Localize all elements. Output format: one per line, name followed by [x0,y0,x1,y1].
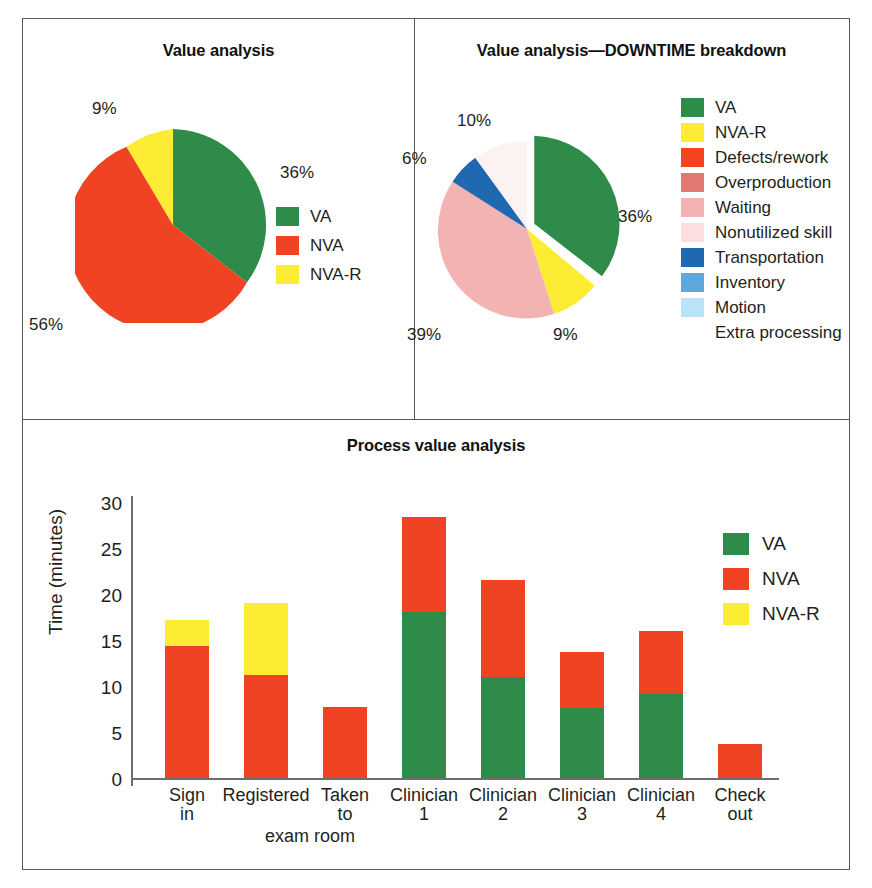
legend-process-value-analysis: VA NVA NVA-R [723,526,820,631]
bar-check-out [718,744,762,778]
bar-seg-va [402,612,446,778]
y-tick-25: 25 [101,539,122,561]
legend-label-inventory: Inventory [715,274,785,291]
legend-label-nva: NVA [310,237,344,254]
legend-item-va: VA [723,526,820,561]
legend-label-overproduction: Overproduction [715,174,831,191]
y-tick-0: 0 [111,769,122,791]
legend-item-transportation: Transportation [681,245,842,270]
legend-swatch-nvar-icon [276,265,299,284]
legend-swatch-nva-icon [723,568,749,590]
legend-label-nvar: NVA-R [762,604,820,623]
legend-label-nvar: NVA-R [715,124,767,141]
legend-swatch-transportation-icon [681,248,704,267]
panel-downtime-breakdown: Value analysis—DOWNTIME breakdown 36% [415,19,848,419]
pie-label-waiting: 39% [407,325,441,345]
legend-swatch-motion-icon [681,298,704,317]
legend-value-analysis: VA NVA NVA-R [276,202,362,289]
y-axis-label: Time (minutes) [45,509,67,635]
bar-seg-va [481,677,525,778]
legend-label-transportation: Transportation [715,249,824,266]
pie-svg-left [75,127,271,323]
bar-seg-nvar [244,603,288,675]
legend-item-defects-rework: Defects/rework [681,145,842,170]
x-label-check-out: Checkout [680,786,800,824]
legend-label-nvar: NVA-R [310,266,362,283]
pie-chart-value-analysis: 36% 56% 9% [75,127,271,323]
legend-swatch-waiting-icon [681,198,704,217]
pie-label-nva-left: 56% [29,315,63,335]
y-axis-line [131,496,133,786]
bar-clinician-1 [402,517,446,778]
legend-item-va: VA [276,202,362,231]
pie-svg-right [435,129,643,329]
legend-label-nonutilized-skill: Nonutilized skill [715,224,832,241]
legend-item-nva: NVA [276,231,362,260]
legend-item-motion: Motion [681,295,842,320]
legend-downtime: VA NVA-R Defects/rework Overproduction W… [681,95,842,345]
legend-label-va: VA [310,208,331,225]
legend-label-waiting: Waiting [715,199,771,216]
bar-seg-nva [323,707,367,778]
pie-label-transportation: 6% [402,149,427,169]
legend-item-waiting: Waiting [681,195,842,220]
pie-label-va-right: 36% [618,207,652,227]
legend-swatch-nvar-icon [723,603,749,625]
panel-value-analysis: Value analysis 36% 56% 9% VA [23,19,415,419]
bar-clinician-4 [639,631,683,778]
pie-chart-downtime: 36% 9% 39% 10% 6% [435,129,635,329]
y-tick-20: 20 [101,585,122,607]
pie-label-nonutilized-skill: 10% [457,111,491,131]
legend-label-motion: Motion [715,299,766,316]
panel-title-downtime: Value analysis—DOWNTIME breakdown [415,41,848,60]
legend-item-inventory: Inventory [681,270,842,295]
legend-swatch-defects-rework-icon [681,148,704,167]
bar-seg-va [639,694,683,778]
legend-item-nvar: NVA-R [681,120,842,145]
legend-swatch-va-icon [276,207,299,226]
bar-clinician-2 [481,580,525,778]
pie-label-nvar-left: 9% [92,99,117,119]
y-tick-5: 5 [111,723,122,745]
bar-seg-nva [481,580,525,677]
y-tick-10: 10 [101,677,122,699]
panel-title-value-analysis: Value analysis [23,41,414,60]
legend-item-overproduction: Overproduction [681,170,842,195]
legend-label-extra-processing: Extra processing [715,324,842,341]
panel-process-value-analysis: Process value analysis Time (minutes) 30… [23,419,849,868]
legend-swatch-nva-icon [276,236,299,255]
bar-sign-in [165,620,209,778]
pie-label-nvar-right: 9% [553,325,578,345]
bar-seg-nva [560,652,604,708]
bar-seg-va [560,708,604,778]
bar-seg-nva [165,646,209,778]
figure-frame: Value analysis 36% 56% 9% VA [22,18,850,870]
legend-swatch-inventory-icon [681,273,704,292]
bar-seg-nvar [165,620,209,647]
legend-swatch-overproduction-icon [681,173,704,192]
bar-clinician-3 [560,652,604,778]
bar-seg-nva [718,744,762,778]
y-tick-30: 30 [101,493,122,515]
legend-swatch-va-icon [723,533,749,555]
legend-item-nonutilized-skill: Nonutilized skill [681,220,842,245]
legend-item-nvar: NVA-R [723,596,820,631]
legend-label-va: VA [715,99,736,116]
bar-seg-nva [639,631,683,695]
legend-item-nva: NVA [723,561,820,596]
legend-swatch-nvar-icon [681,123,704,142]
panel-title-process-value-analysis: Process value analysis [23,436,849,455]
y-tick-15: 15 [101,631,122,653]
legend-label-defects-rework: Defects/rework [715,149,828,166]
bar-seg-nva [402,517,446,613]
top-row: Value analysis 36% 56% 9% VA [23,19,849,419]
bar-chart-plot-area: 30 25 20 15 10 5 0 [131,502,763,780]
legend-item-nvar: NVA-R [276,260,362,289]
legend-swatch-extra-processing-icon [681,323,704,342]
legend-swatch-nonutilized-skill-icon [681,223,704,242]
bar-taken-to-exam-room [323,707,367,778]
legend-item-extra-processing: Extra processing [681,320,842,345]
x-label-exam-room-line: exam room [265,826,355,847]
legend-swatch-va-icon [681,98,704,117]
legend-label-nva: NVA [762,569,800,588]
